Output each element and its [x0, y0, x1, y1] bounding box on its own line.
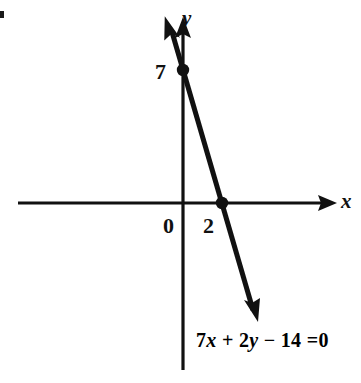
equation-var-x: x — [206, 329, 216, 351]
equation-coefficient-y: 2 — [239, 329, 249, 351]
equation-caption: 7x + 2y − 14 =0 — [196, 329, 329, 352]
equation-minus-sign: − — [264, 329, 276, 351]
point-y-intercept — [177, 64, 189, 76]
equation-rhs: 0 — [318, 329, 328, 351]
tick-label-7: 7 — [155, 61, 166, 83]
equation-equals-sign: = — [307, 329, 319, 351]
coordinate-plane-figure — [0, 0, 361, 383]
equation-plus-sign: + — [222, 329, 234, 351]
equation-coefficient-x: 7 — [196, 329, 206, 351]
point-x-intercept — [216, 197, 228, 209]
equation-constant: 14 — [281, 329, 302, 351]
origin-label-0: 0 — [163, 215, 174, 237]
scan-artifact-speck — [0, 11, 4, 18]
tick-label-2: 2 — [203, 215, 214, 237]
x-axis-label: x — [341, 191, 352, 212]
equation-var-y: y — [249, 329, 258, 351]
y-axis-label: y — [182, 8, 191, 29]
